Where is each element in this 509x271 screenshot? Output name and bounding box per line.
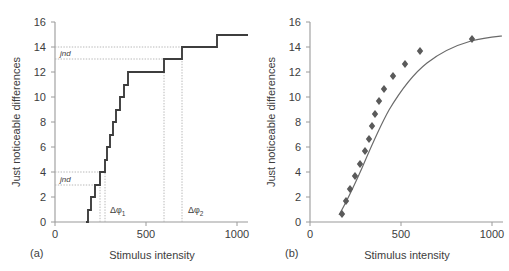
y-tick-labels-a: 0 2 4 6 8 10 12 14 16 — [34, 16, 46, 228]
x-axis-title-b: Stimulus intensity — [364, 249, 450, 261]
y-ticks-a — [51, 22, 55, 222]
jnd-upper-label: jnd — [59, 49, 71, 58]
y-tick-label: 4 — [295, 166, 301, 178]
panel-a: 0 2 4 6 8 10 12 14 16 0 500 1000 — [0, 0, 254, 271]
delta-phi-1-label: Δφ1 — [110, 205, 126, 217]
data-point — [381, 85, 387, 93]
y-tick-label: 8 — [295, 116, 301, 128]
y-tick-label: 8 — [40, 116, 46, 128]
x-tick-labels-b: 0 500 1000 — [307, 228, 504, 240]
guide-lines-a — [55, 47, 182, 222]
data-point — [376, 97, 382, 105]
y-tick-label: 0 — [295, 216, 301, 228]
y-tick-label: 12 — [34, 66, 46, 78]
panel-b: 0 2 4 6 8 10 12 14 16 0 500 1000 — [255, 0, 509, 271]
panel-b-plot: 0 2 4 6 8 10 12 14 16 0 500 1000 — [255, 0, 509, 271]
y-axis-title-a: Just noticeable differences — [10, 56, 22, 187]
x-axis-title-a: Stimulus intensity — [109, 249, 195, 261]
y-tick-labels-b: 0 2 4 6 8 10 12 14 16 — [289, 16, 301, 228]
data-point — [362, 147, 368, 155]
data-point — [339, 210, 345, 218]
data-point — [347, 185, 353, 193]
x-tick-label: 0 — [52, 228, 58, 240]
x-tick-label: 500 — [137, 228, 155, 240]
x-ticks-b — [310, 222, 492, 226]
data-points — [339, 35, 475, 218]
data-point — [417, 47, 423, 55]
y-tick-label: 0 — [40, 216, 46, 228]
y-axis-title-b: Just noticeable differences — [265, 56, 277, 187]
y-tick-label: 4 — [40, 166, 46, 178]
data-point — [369, 122, 375, 130]
y-tick-label: 10 — [34, 91, 46, 103]
y-tick-label: 16 — [289, 16, 301, 28]
x-tick-label: 500 — [392, 228, 410, 240]
x-tick-label: 1000 — [225, 228, 249, 240]
x-ticks-a — [55, 222, 237, 226]
x-tick-labels-a: 0 500 1000 — [52, 228, 249, 240]
data-point — [390, 72, 396, 80]
panel-a-plot: 0 2 4 6 8 10 12 14 16 0 500 1000 — [0, 0, 254, 271]
y-tick-label: 14 — [34, 41, 46, 53]
y-ticks-b — [306, 22, 310, 222]
jnd-lower-label: jnd — [59, 175, 71, 184]
y-tick-label: 14 — [289, 41, 301, 53]
panel-label-a: (a) — [30, 247, 43, 259]
y-tick-label: 2 — [295, 191, 301, 203]
panel-label-b: (b) — [285, 247, 298, 259]
y-tick-label: 2 — [40, 191, 46, 203]
y-tick-label: 6 — [40, 141, 46, 153]
figure-container: 0 2 4 6 8 10 12 14 16 0 500 1000 — [0, 0, 509, 271]
y-tick-label: 16 — [34, 16, 46, 28]
y-tick-label: 12 — [289, 66, 301, 78]
step-function-line — [86, 35, 248, 222]
delta-phi-2-label: Δφ2 — [188, 205, 204, 217]
fit-curve — [339, 36, 502, 215]
data-point — [366, 135, 372, 143]
data-point — [372, 110, 378, 118]
x-tick-label: 0 — [307, 228, 313, 240]
data-point — [402, 60, 408, 68]
y-tick-label: 6 — [295, 141, 301, 153]
y-tick-label: 10 — [289, 91, 301, 103]
x-tick-label: 1000 — [480, 228, 504, 240]
